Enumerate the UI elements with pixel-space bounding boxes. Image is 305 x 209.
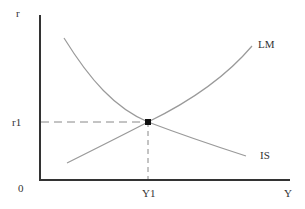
lm-curve [67,46,252,163]
is-label: IS [260,149,270,161]
origin-label: 0 [18,182,24,194]
is-lm-diagram: r r1 0 Y1 Y LM IS [0,0,305,209]
y1-label: Y1 [142,187,155,199]
is-curve [64,38,246,156]
lm-label: LM [258,38,275,50]
y-axis-label: r [16,7,20,19]
equilibrium-point [145,119,151,125]
r1-label: r1 [12,116,21,128]
x-axis-label: Y [284,187,292,199]
